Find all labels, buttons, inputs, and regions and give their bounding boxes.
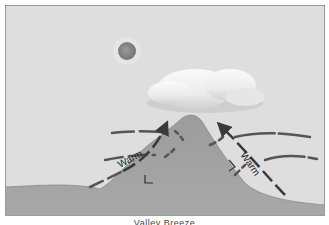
diagram-frame: Warm Warm xyxy=(5,5,325,216)
sun-icon xyxy=(113,37,141,65)
diagram-caption: Valley Breeze xyxy=(0,218,329,225)
